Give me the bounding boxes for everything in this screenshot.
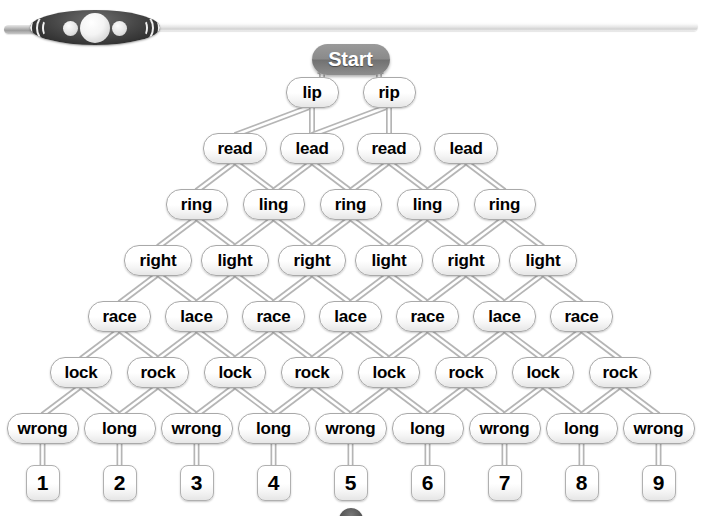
tree-node-light[interactable]: light (355, 245, 423, 276)
tree-node-long[interactable]: long (238, 413, 310, 444)
node-label: long (256, 419, 291, 439)
tree-node-long[interactable]: long (392, 413, 464, 444)
node-label: lace (180, 307, 212, 327)
tree-node-wrong[interactable]: wrong (623, 413, 695, 444)
tree-node-right[interactable]: right (278, 245, 346, 276)
tree-node-rock[interactable]: rock (127, 357, 189, 388)
tree-node-lock[interactable]: lock (50, 357, 112, 388)
tree-node-wrong[interactable]: wrong (7, 413, 79, 444)
tree-node-number-1[interactable]: 1 (26, 465, 60, 501)
tree-node-wrong[interactable]: wrong (469, 413, 541, 444)
node-label: ling (413, 195, 442, 215)
node-label: 7 (499, 471, 510, 495)
tree-node-number-5[interactable]: 5 (334, 465, 368, 501)
node-label: right (294, 251, 331, 271)
node-label: rip (378, 83, 399, 103)
node-label: race (256, 307, 290, 327)
tree-node-number-9[interactable]: 9 (642, 465, 676, 501)
node-label: wrong (326, 419, 376, 439)
node-label: ring (489, 195, 520, 215)
tree-node-long[interactable]: long (546, 413, 618, 444)
node-label: 6 (422, 471, 433, 495)
tree-node-lace[interactable]: lace (165, 301, 228, 332)
tree-node-light[interactable]: light (509, 245, 577, 276)
node-label: wrong (172, 419, 222, 439)
node-label: lace (334, 307, 366, 327)
node-label: 9 (653, 471, 664, 495)
tree-node-right[interactable]: right (124, 245, 192, 276)
tree-node-start[interactable]: Start (312, 44, 390, 75)
node-label: rock (294, 363, 329, 383)
tree-node-read[interactable]: read (203, 133, 267, 164)
node-label: rock (448, 363, 483, 383)
tree-node-number-4[interactable]: 4 (257, 465, 291, 501)
node-label: 1 (37, 471, 48, 495)
word-ladder-tree: Startlipripreadleadreadleadringlingringl… (0, 0, 701, 516)
word-tree-canvas: Startlipripreadleadreadleadringlingringl… (0, 0, 701, 516)
node-label: lock (218, 363, 251, 383)
tree-node-race[interactable]: race (88, 301, 151, 332)
node-label: rock (602, 363, 637, 383)
node-label: 2 (114, 471, 125, 495)
tree-node-right[interactable]: right (432, 245, 500, 276)
tree-node-ling[interactable]: ling (397, 189, 459, 220)
tree-node-lock[interactable]: lock (204, 357, 266, 388)
tree-node-rip[interactable]: rip (363, 77, 416, 108)
node-label: race (102, 307, 136, 327)
tree-node-lip[interactable]: lip (286, 77, 339, 108)
tree-node-ling[interactable]: ling (243, 189, 305, 220)
node-label: lead (449, 139, 482, 159)
node-label: 8 (576, 471, 587, 495)
node-label: long (564, 419, 599, 439)
tree-node-number-8[interactable]: 8 (565, 465, 599, 501)
tree-node-lace[interactable]: lace (473, 301, 536, 332)
node-label: lock (372, 363, 405, 383)
node-label: ring (181, 195, 212, 215)
node-label: race (564, 307, 598, 327)
tree-node-ring[interactable]: ring (474, 189, 536, 220)
node-label: wrong (480, 419, 530, 439)
node-label: wrong (634, 419, 684, 439)
tree-node-number-6[interactable]: 6 (411, 465, 445, 501)
node-label: wrong (18, 419, 68, 439)
node-label: 3 (191, 471, 202, 495)
node-label: light (218, 251, 253, 271)
tree-node-rock[interactable]: rock (435, 357, 497, 388)
node-label: 5 (345, 471, 356, 495)
tree-node-number-2[interactable]: 2 (103, 465, 137, 501)
tree-node-race[interactable]: race (550, 301, 613, 332)
node-label: rock (140, 363, 175, 383)
tree-node-race[interactable]: race (396, 301, 459, 332)
node-label: read (371, 139, 406, 159)
tree-node-ring[interactable]: ring (320, 189, 382, 220)
node-label: lead (295, 139, 328, 159)
node-label: right (140, 251, 177, 271)
tree-node-race[interactable]: race (242, 301, 305, 332)
tree-node-lead[interactable]: lead (280, 133, 344, 164)
tree-node-lock[interactable]: lock (512, 357, 574, 388)
tree-node-rock[interactable]: rock (281, 357, 343, 388)
node-label: right (448, 251, 485, 271)
tree-node-long[interactable]: long (84, 413, 156, 444)
node-label: read (217, 139, 252, 159)
tree-node-lace[interactable]: lace (319, 301, 382, 332)
tree-node-lock[interactable]: lock (358, 357, 420, 388)
node-label: lock (64, 363, 97, 383)
tree-node-rock[interactable]: rock (589, 357, 651, 388)
tree-node-ring[interactable]: ring (166, 189, 228, 220)
tree-node-read[interactable]: read (357, 133, 421, 164)
node-label: lock (526, 363, 559, 383)
node-label: 4 (268, 471, 279, 495)
tree-node-number-3[interactable]: 3 (180, 465, 214, 501)
node-label: lip (302, 83, 321, 103)
node-label: light (372, 251, 407, 271)
tree-node-number-7[interactable]: 7 (488, 465, 522, 501)
tree-node-wrong[interactable]: wrong (161, 413, 233, 444)
node-label: race (410, 307, 444, 327)
node-label: long (102, 419, 137, 439)
node-label: long (410, 419, 445, 439)
tree-node-wrong[interactable]: wrong (315, 413, 387, 444)
tree-node-light[interactable]: light (201, 245, 269, 276)
tree-node-lead[interactable]: lead (434, 133, 498, 164)
node-label: light (526, 251, 561, 271)
